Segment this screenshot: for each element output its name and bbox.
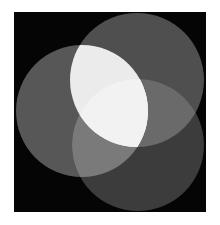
- venn-circles: [0, 0, 220, 225]
